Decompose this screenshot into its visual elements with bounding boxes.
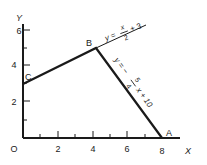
point-label-B: B [86,38,92,48]
y-tick-label-2: 2 [11,97,16,107]
y-tick-label-4: 4 [11,60,16,70]
equation-CB-numerator: x [118,23,125,31]
equation-CB-fraction-bar [120,31,128,34]
equation-BA-tail: x + 10 [134,85,155,109]
x-axis-label: X [184,146,192,156]
equation-line-BA: y = − 5 4 x + 10 [108,53,158,113]
equation-CB-lhs: y = [103,31,118,44]
x-axis-ticks [40,131,145,138]
point-label-C: C [25,72,32,82]
x-tick-label-8: 8 [159,146,164,156]
equation-CB-denominator: 2 [123,33,129,41]
y-tick-label-6: 6 [16,26,21,36]
y-axis-label: Y [16,13,23,23]
x-tick-label-4: 4 [90,144,95,154]
equation-line-CB: y = x 2 + 3 [101,17,145,48]
x-tick-label-2: 2 [55,144,60,154]
equation-CB-tail: + 3 [129,21,143,34]
origin-label: O [10,144,17,154]
point-label-A: A [166,128,172,138]
coordinate-diagram: 2 4 6 8 2 4 6 O X Y B C A y = x 2 + 3 y … [0,0,207,165]
x-tick-label-6: 6 [124,144,129,154]
equation-BA-numerator: 5 [134,76,142,83]
